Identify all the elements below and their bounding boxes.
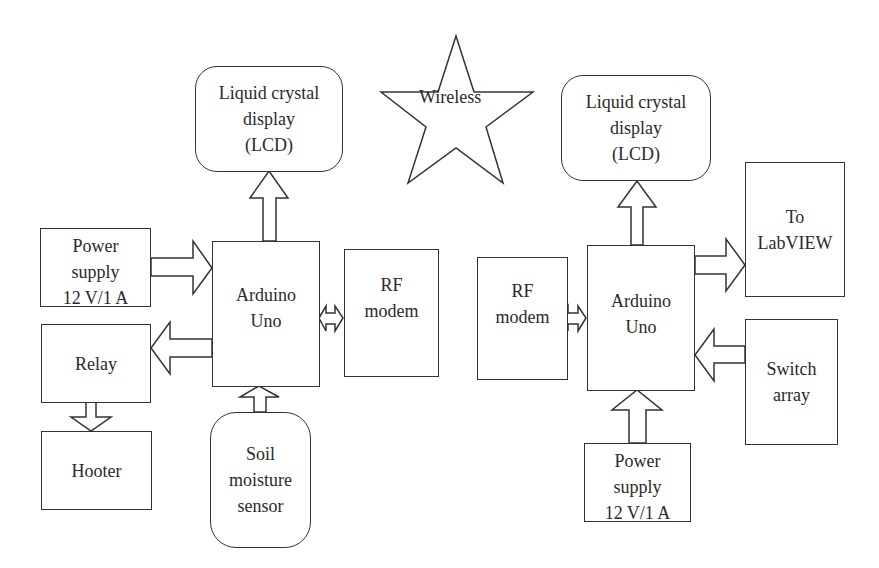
- to-labview-block: To LabVIEW: [745, 162, 845, 297]
- switch-line1: Switch: [766, 356, 816, 382]
- left-power-supply-block: Power supply 12 V/1 A: [40, 228, 151, 307]
- right-power-line3: 12 V/1 A: [605, 500, 671, 526]
- left-arduino-block: Arduino Uno: [212, 241, 320, 387]
- soil-moisture-sensor-block: Soil moisture sensor: [210, 412, 311, 548]
- switch-line2: array: [773, 382, 810, 408]
- right-rf-line2: modem: [496, 304, 550, 330]
- switch-array-block: Switch array: [745, 319, 838, 445]
- right-rf-modem-block: RF modem: [477, 257, 568, 380]
- right-lcd-line2: display: [610, 115, 662, 141]
- right-power-supply-block: Power supply 12 V/1 A: [584, 443, 691, 522]
- arrow-left-icon: [151, 322, 212, 374]
- left-power-line1: Power: [73, 233, 119, 259]
- labview-line1: To: [786, 204, 805, 230]
- left-rf-line2: modem: [365, 298, 419, 324]
- left-power-line3: 12 V/1 A: [63, 285, 129, 311]
- right-rf-line1: RF: [511, 278, 533, 304]
- right-power-line2: supply: [613, 474, 661, 500]
- soil-line1: Soil: [246, 441, 275, 467]
- right-arduino-line1: Arduino: [611, 288, 671, 314]
- right-lcd-line3: (LCD): [612, 141, 660, 167]
- arrow-up-icon: [612, 390, 662, 443]
- arrow-left-icon: [695, 329, 745, 381]
- hooter-label: Hooter: [72, 458, 122, 484]
- left-rf-line1: RF: [380, 272, 402, 298]
- relay-label: Relay: [75, 351, 117, 377]
- right-arduino-line2: Uno: [626, 314, 657, 340]
- hooter-block: Hooter: [41, 431, 152, 510]
- left-lcd-block: Liquid crystal display (LCD): [195, 66, 343, 172]
- left-lcd-line3: (LCD): [245, 132, 293, 158]
- wireless-star-icon: [381, 36, 533, 183]
- arrow-up-icon: [240, 386, 279, 412]
- left-lcd-line1: Liquid crystal: [219, 80, 319, 106]
- arrow-up-icon: [250, 171, 288, 241]
- left-rf-modem-block: RF modem: [344, 249, 439, 377]
- soil-line2: moisture: [229, 467, 292, 493]
- left-lcd-line2: display: [243, 106, 295, 132]
- arrow-right-icon: [695, 239, 745, 291]
- arrow-up-icon: [618, 181, 656, 245]
- right-lcd-line1: Liquid crystal: [586, 89, 686, 115]
- arrow-right-icon: [151, 241, 212, 294]
- left-arduino-line1: Arduino: [236, 282, 296, 308]
- right-power-line1: Power: [615, 448, 661, 474]
- right-arduino-block: Arduino Uno: [587, 245, 695, 391]
- relay-block: Relay: [41, 324, 151, 403]
- block-diagram: Wireless Liquid crystal display (LCD) Po…: [0, 0, 879, 568]
- wireless-label: Wireless: [419, 87, 481, 108]
- right-lcd-block: Liquid crystal display (LCD): [561, 75, 711, 181]
- arrow-down-icon: [71, 402, 111, 431]
- bidirectional-arrow-icon: [319, 306, 343, 331]
- soil-line3: sensor: [238, 493, 284, 519]
- labview-line2: LabVIEW: [758, 230, 833, 256]
- left-power-line2: supply: [71, 259, 119, 285]
- left-arduino-line2: Uno: [251, 308, 282, 334]
